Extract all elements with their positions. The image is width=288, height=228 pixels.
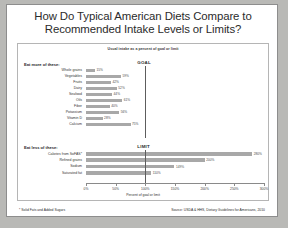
category-label: Seafood <box>69 92 82 96</box>
footnote: * Solid Fats and Added Sugars <box>19 208 65 212</box>
source-note: Source: USDA & HHS, Dietary Guidelines f… <box>171 208 265 212</box>
category-label: Saturated fat <box>62 171 82 175</box>
category-label: Potassium <box>66 110 82 114</box>
reference-line-goal <box>145 66 147 138</box>
bar-value-label: 40% <box>111 104 117 108</box>
category-label: Oils <box>76 98 82 102</box>
bar-value-label: 110% <box>153 171 161 175</box>
chart-page: How Do Typical American Diets Compare to… <box>6 4 278 217</box>
bar-fiber <box>86 105 110 109</box>
x-axis-title: Percent of goal or limit <box>18 193 268 197</box>
bar-calories-from-sofas <box>86 152 252 156</box>
bar-value-label: 75% <box>132 122 138 126</box>
category-label: Refined grains <box>59 158 82 162</box>
x-axis-tick <box>175 183 176 186</box>
reference-line-limit <box>145 150 147 183</box>
x-axis-tick-label: 300% <box>260 187 268 191</box>
category-label: Fiber <box>74 104 82 108</box>
bar-value-label: 42% <box>112 80 118 84</box>
category-label: Calories from SoFAS* <box>48 152 82 156</box>
bar-value-label: 15% <box>96 68 102 72</box>
bar-value-label: 52% <box>118 86 124 90</box>
reference-label-limit: LIMIT <box>137 144 149 149</box>
bar-dairy <box>86 87 117 91</box>
group-heading-1: Eat more of these: <box>24 62 60 67</box>
bar-value-label: 61% <box>124 98 130 102</box>
x-axis-tick-label: 0% <box>84 187 89 191</box>
bar-sodium <box>86 165 174 169</box>
x-axis-tick-label: 150% <box>171 187 179 191</box>
x-axis-tick <box>86 183 87 186</box>
bar-vegetables <box>86 75 121 79</box>
title-line-2: Recommended Intake Levels or Limits? <box>17 23 269 36</box>
x-axis-tick <box>264 183 265 186</box>
category-label: Sodium <box>70 164 82 168</box>
category-label: Vitamin D <box>67 116 82 120</box>
x-axis-tick-label: 200% <box>200 187 208 191</box>
bar-potassium <box>86 111 119 115</box>
bar-value-label: 59% <box>123 74 129 78</box>
bar-whole-grains <box>86 69 95 73</box>
plot-area: Eat more of these:Whole grains15%Vegetab… <box>18 44 268 200</box>
bar-value-label: 149% <box>176 165 184 169</box>
bar-value-label: 28% <box>104 116 110 120</box>
title-line-1: How Do Typical American Diets Compare to <box>34 10 251 22</box>
x-axis-tick <box>205 183 206 186</box>
bar-calcium <box>86 123 131 127</box>
bar-seafood <box>86 93 112 97</box>
chart-panel: Usual intake as a percent of goal or lim… <box>17 43 269 201</box>
x-axis-tick <box>116 183 117 186</box>
bar-value-label: 200% <box>206 158 214 162</box>
bar-value-label: 56% <box>121 110 127 114</box>
category-label: Vegetables <box>65 74 82 78</box>
group-heading-2: Eat less of these: <box>24 145 58 150</box>
screenshot-root: How Do Typical American Diets Compare to… <box>0 0 288 228</box>
bar-oils <box>86 99 122 103</box>
bar-saturated-fat <box>86 171 151 175</box>
category-label: Whole grains <box>62 68 82 72</box>
x-axis-tick-label: 250% <box>230 187 238 191</box>
category-label: Fruits <box>73 80 82 84</box>
reference-label-goal: GOAL <box>137 60 150 65</box>
x-axis-tick-label: 100% <box>141 187 149 191</box>
x-axis-tick <box>234 183 235 186</box>
category-label: Calcium <box>69 122 82 126</box>
bar-value-label: 280% <box>254 152 262 156</box>
page-title: How Do Typical American Diets Compare to… <box>17 10 269 35</box>
bar-fruits <box>86 81 111 85</box>
bar-vitamin-d <box>86 117 103 121</box>
bar-value-label: 44% <box>114 92 120 96</box>
x-axis-tick-label: 50% <box>112 187 119 191</box>
x-axis-tick <box>145 183 146 186</box>
category-label: Dairy <box>74 86 82 90</box>
